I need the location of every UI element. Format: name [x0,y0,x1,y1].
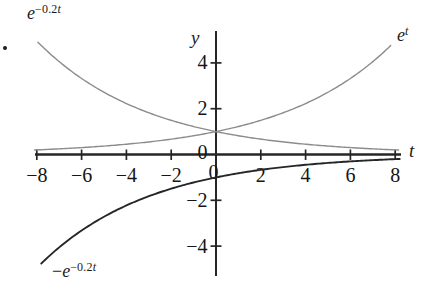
y-axis-label: y [191,28,199,47]
label-exponent-number: −0.2 [70,260,93,274]
x-tick-label: 0 [209,161,219,183]
x-tick-label: 2 [256,164,266,186]
y-tick-label: −4 [186,235,207,257]
x-tick-label: −8 [26,164,47,186]
x-tick-label: 6 [345,164,355,186]
label-base: e [62,261,70,281]
curves [35,42,400,263]
y-tick-label: 4 [198,51,208,73]
x-tick-label: −4 [116,164,137,186]
curve-exp-t [35,46,391,150]
x-axis-label: t [409,141,414,160]
exponential-curves-figure: −8−6−4−202468420−2−4 e−0.2t et −e−0.2t y… [0,0,423,289]
x-tick-label: 4 [301,164,311,186]
y-tick-label: 0 [198,141,208,163]
x-tick-label: −6 [71,164,92,186]
label-exponent-number: −0.2 [35,2,58,16]
curve-exp-neg-02t [38,42,399,150]
label-exponent-variable: t [93,260,97,274]
label-base: e [397,25,405,45]
x-tick-label: −2 [161,164,182,186]
curve-label-exp-t: et [397,25,409,44]
x-tick-label: 8 [390,164,400,186]
axes [35,31,401,276]
y-tick-label: 2 [198,97,208,119]
curve-label-neg-exp-neg-02t: −e−0.2t [52,261,96,280]
y-tick-label: −2 [186,189,207,211]
label-exponent-variable: t [58,2,62,16]
plot-svg: −8−6−4−202468420−2−4 [0,0,423,289]
label-base: e [27,3,35,23]
label-exponent-variable: t [405,24,409,38]
curve-label-exp-neg-02t: e−0.2t [27,3,61,22]
label-prefix: − [52,261,62,281]
